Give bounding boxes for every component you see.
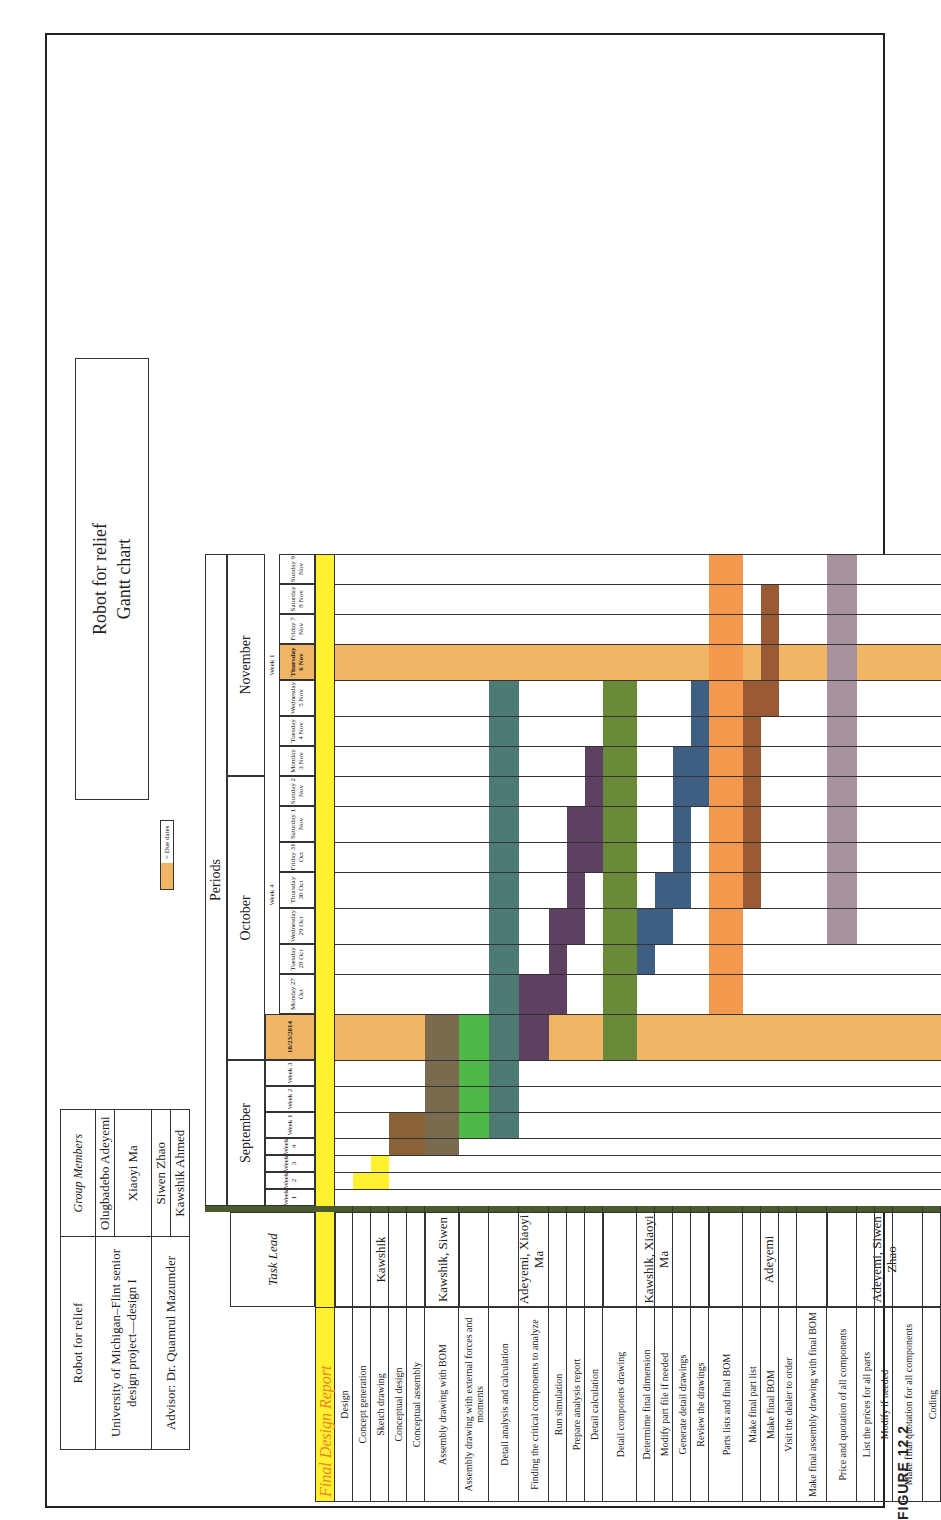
- gantt-cell: [585, 974, 603, 1014]
- task-name: Detail calculation: [585, 1307, 603, 1502]
- gantt-cell: [407, 644, 425, 680]
- gantt-cell: [857, 776, 875, 806]
- gantt-cell: [709, 1060, 743, 1086]
- gantt-cell: [923, 1086, 941, 1112]
- gantt-cell: [761, 1172, 779, 1189]
- gantt-cell: [923, 584, 941, 614]
- gantt-cell: [335, 944, 353, 974]
- gantt-cell: [637, 776, 655, 806]
- gantt-cell: [709, 842, 743, 872]
- gantt-cell: [691, 1014, 709, 1060]
- gantt-cell: [691, 1155, 709, 1172]
- gantt-cell: [459, 1172, 489, 1189]
- gantt-cell: [797, 872, 827, 908]
- gantt-cell: [779, 776, 797, 806]
- gantt-cell: [637, 1014, 655, 1060]
- gantt-cell: [353, 908, 371, 944]
- gantt-cell: [709, 1172, 743, 1189]
- gantt-cell: [389, 776, 407, 806]
- university-line: University of Michigan–Flint senior desi…: [96, 1237, 152, 1450]
- gantt-cell: [459, 1060, 489, 1086]
- gantt-cell: [567, 716, 585, 746]
- gantt-cell: [655, 974, 673, 1014]
- due-date-swatch: [161, 863, 173, 889]
- gantt-cell: [779, 1138, 797, 1155]
- gantt-cell: [459, 806, 489, 842]
- gantt-cell: [857, 1014, 875, 1060]
- gantt-cell: [407, 746, 425, 776]
- gantt-cell: [425, 584, 459, 614]
- gantt-cell: [857, 1189, 875, 1206]
- member-2: Xiaoyi Ma: [115, 1110, 152, 1237]
- gantt-cell: [585, 1155, 603, 1172]
- gantt-cell: [743, 554, 761, 584]
- gantt-cell: [709, 614, 743, 644]
- gantt-cell: [691, 716, 709, 746]
- task-name: Generate detail drawings: [673, 1307, 691, 1502]
- gantt-cell: [335, 614, 353, 644]
- task-name: Make final assembly drawing with final B…: [797, 1307, 827, 1502]
- gantt-cell: [691, 974, 709, 1014]
- gantt-cell: [567, 680, 585, 716]
- gantt-cell: [875, 1155, 893, 1172]
- gantt-cell: [519, 614, 549, 644]
- gantt-cell: [549, 1060, 567, 1086]
- gantt-cell: [603, 1112, 637, 1138]
- gantt-cell: [459, 974, 489, 1014]
- gantt-cell: [389, 1060, 407, 1086]
- gantt-cell: [353, 806, 371, 842]
- gantt-cell: [827, 1155, 857, 1172]
- gantt-cell: [371, 1155, 389, 1172]
- gantt-cell: [407, 1189, 425, 1206]
- gantt-cell: [779, 974, 797, 1014]
- gantt-cell: [797, 944, 827, 974]
- gantt-cell: [875, 554, 893, 584]
- gantt-cell: [389, 1189, 407, 1206]
- gantt-cell: [827, 1014, 857, 1060]
- gantt-cell: [637, 944, 655, 974]
- gantt-cell: [459, 1014, 489, 1060]
- gantt-cell: [519, 1189, 549, 1206]
- gantt-cell: [655, 1060, 673, 1086]
- gantt-cell: [673, 1014, 691, 1060]
- gantt-cell: [673, 1155, 691, 1172]
- column-header: Sunday 9 Nov: [279, 554, 315, 584]
- gantt-cell: [743, 974, 761, 1014]
- task-name: Determime final dimension: [637, 1307, 655, 1502]
- gantt-cell: [691, 1112, 709, 1138]
- gantt-cell: [389, 1086, 407, 1112]
- gantt-cell: [893, 1060, 923, 1086]
- gantt-cell: [655, 746, 673, 776]
- gantt-cell: [743, 1014, 761, 1060]
- column-header: Week 1: [265, 1112, 315, 1138]
- gantt-cell: [353, 776, 371, 806]
- gantt-cell: [779, 1112, 797, 1138]
- column-header: Monday 27 Oct: [279, 974, 315, 1014]
- gantt-cell: [779, 1086, 797, 1112]
- task-name: Prepare analysis report: [567, 1307, 585, 1502]
- gantt-cell: [743, 776, 761, 806]
- gantt-cell: [857, 746, 875, 776]
- gantt-cell: [519, 908, 549, 944]
- gantt-cell: [519, 1155, 549, 1172]
- gantt-cell: [353, 974, 371, 1014]
- gantt-cell: [761, 842, 779, 872]
- gantt-cell: [549, 1189, 567, 1206]
- gantt-cell: [603, 1172, 637, 1189]
- gantt-cell: [923, 1138, 941, 1155]
- gantt-cell: [585, 908, 603, 944]
- gantt-cell: [549, 872, 567, 908]
- gantt-cell: [923, 554, 941, 584]
- gantt-cell: [637, 716, 655, 746]
- gantt-cell: [875, 716, 893, 746]
- group-members-label: Group Members: [61, 1110, 96, 1237]
- gantt-cell: [893, 1014, 923, 1060]
- gantt-cell: [567, 1112, 585, 1138]
- gantt-cell: [567, 1086, 585, 1112]
- gantt-cell: [603, 806, 637, 842]
- gantt-cell: [459, 746, 489, 776]
- gantt-cell: [567, 584, 585, 614]
- gantt-cell: [827, 746, 857, 776]
- gantt-cell: [353, 716, 371, 746]
- gantt-cell: [353, 614, 371, 644]
